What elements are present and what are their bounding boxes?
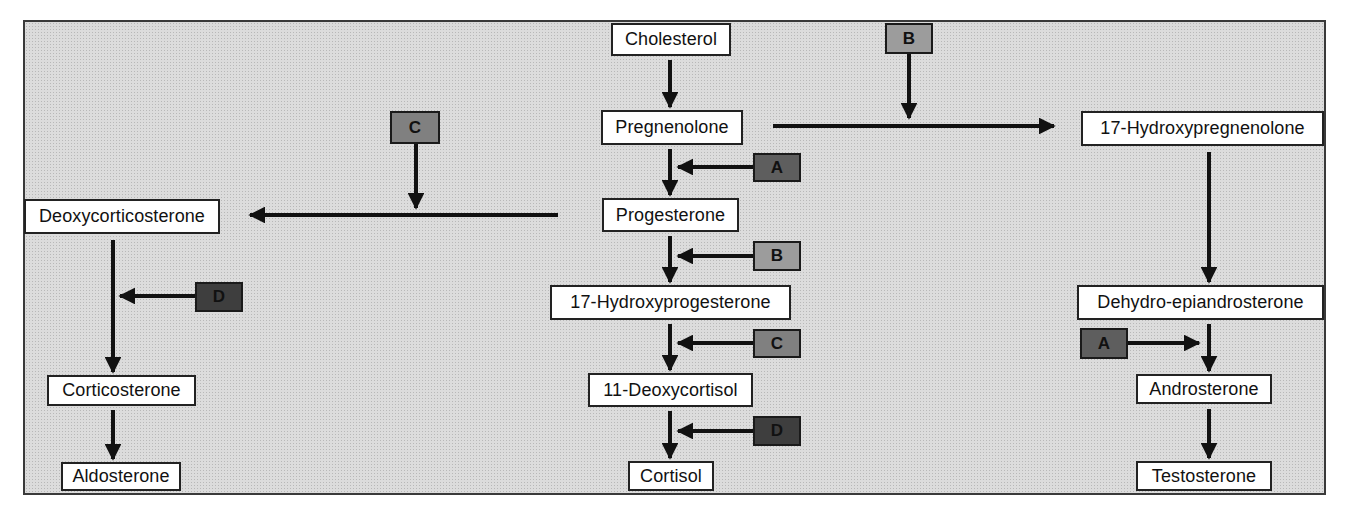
- node-testosterone: Testosterone: [1136, 461, 1272, 491]
- node-17-hydroxypregnenolone: 17-Hydroxypregnenolone: [1081, 111, 1324, 146]
- node-androsterone: Androsterone: [1136, 374, 1272, 404]
- enzyme-d-left: D: [195, 282, 243, 312]
- node-cortisol: Cortisol: [628, 461, 714, 491]
- node-progesterone: Progesterone: [602, 198, 739, 232]
- enzyme-a-right: A: [1080, 328, 1128, 359]
- node-deoxycorticosterone: Deoxycorticosterone: [24, 199, 220, 234]
- node-cholesterol: Cholesterol: [611, 23, 731, 56]
- enzyme-d-center: D: [753, 416, 801, 446]
- node-corticosterone: Corticosterone: [47, 375, 196, 406]
- node-17-hydroxyprogesterone: 17-Hydroxyprogesterone: [550, 285, 791, 320]
- enzyme-a-center: A: [753, 153, 801, 182]
- node-aldosterone: Aldosterone: [61, 462, 181, 491]
- node-11-deoxycortisol: 11-Deoxycortisol: [588, 373, 753, 407]
- enzyme-b-center: B: [753, 241, 801, 271]
- enzyme-b-top: B: [885, 23, 933, 54]
- diagram-frame: [23, 20, 1326, 495]
- enzyme-c-top: C: [390, 111, 440, 144]
- enzyme-c-center: C: [753, 329, 801, 358]
- node-pregnenolone: Pregnenolone: [601, 110, 743, 145]
- node-dehydro-epiandrosterone: Dehydro-epiandrosterone: [1077, 285, 1324, 320]
